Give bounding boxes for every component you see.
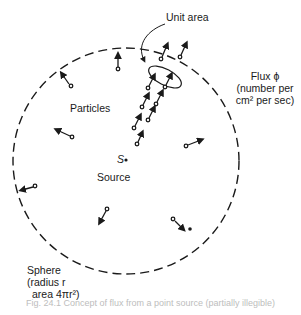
particles-label: Particles [70, 102, 110, 114]
figure-caption: Fig. 24.1 Concept of flux from a point s… [0, 298, 301, 308]
flux-label-line1: Flux ϕ [230, 70, 300, 82]
source-symbol: S [117, 153, 124, 165]
source-point [124, 158, 127, 161]
unit-area-label: Unit area [166, 11, 209, 23]
flux-label-line3: cm² per sec) [230, 94, 300, 106]
unit-area-leader [141, 24, 165, 60]
particles [22, 44, 201, 229]
sphere-label-line2: (radius r [27, 276, 80, 288]
sphere-label-line1: Sphere [27, 264, 80, 276]
flux-label-line2: (number per [230, 82, 300, 94]
source-label: Source [97, 171, 130, 183]
flux-label: Flux ϕ (number per cm² per sec) [230, 70, 300, 106]
sphere-label: Sphere (radius r area 4πr²) [27, 264, 80, 300]
absorbed-particle [188, 227, 192, 231]
